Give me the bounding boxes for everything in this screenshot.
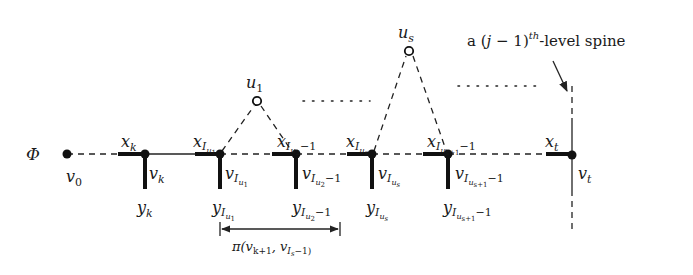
node-vk — [141, 150, 150, 159]
label-vIus1-1: vIus+1−1 — [455, 164, 504, 189]
annotation-arrow — [553, 61, 567, 91]
node-vIus — [368, 150, 377, 159]
label-xk: xk — [121, 132, 137, 154]
label-vk: vk — [149, 164, 165, 186]
label-v0: v0 — [66, 167, 82, 189]
tree-spine-diagram: Φ u1 us v0 xk vk y — [0, 0, 693, 275]
label-us: us — [398, 23, 414, 45]
node-v0 — [63, 150, 72, 159]
label-vIus: vIus — [378, 164, 401, 189]
pi-label: π(vk+1, vIs−1) — [231, 239, 311, 258]
label-yIus: yIus — [365, 198, 389, 223]
edge-u1-left — [222, 106, 254, 151]
label-vt: vt — [578, 164, 592, 186]
label-yk: yk — [136, 198, 153, 220]
phi-label: Φ — [26, 144, 40, 164]
label-xt: xt — [545, 132, 559, 154]
label-u1: u1 — [246, 73, 263, 95]
label-yIus1-1: yIus+1−1 — [442, 198, 492, 223]
label-yIu2-1: yIu2−1 — [291, 198, 331, 223]
node-us — [405, 47, 413, 55]
edge-us-left — [374, 56, 406, 151]
node-vIu1 — [216, 150, 225, 159]
node-u1 — [253, 97, 261, 105]
node-vt — [568, 151, 577, 160]
annotation-label: a (j − 1)th-level spine — [467, 30, 626, 50]
label-vIu2-1: vIu2−1 — [302, 164, 341, 189]
label-vIu1: vIu1 — [225, 164, 248, 189]
label-yIu1: yIu1 — [211, 198, 235, 223]
